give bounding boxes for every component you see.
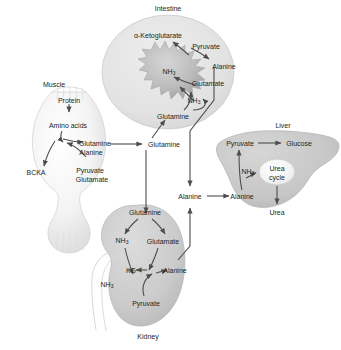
nh3-formula-text: NH3: [242, 168, 255, 175]
intestine-label-glutamine: Glutamine: [157, 113, 189, 120]
muscle-label-glutamate: Glutamate: [76, 176, 108, 183]
muscle-label-amino-acids: Amino acids: [49, 122, 87, 129]
liver-label-urea: Urea: [269, 209, 284, 216]
nh3-formula-text: NH3: [188, 97, 201, 104]
intestine-label-glutamate: Glutamate: [192, 80, 224, 87]
kidney-label-glutamate: Glutamate: [147, 238, 179, 245]
kidney-label-alanine: Alanine: [163, 267, 186, 274]
kidney-label-nh3-intracellular: NH3: [116, 237, 129, 245]
liver-label-glucose: Glucose: [286, 140, 312, 147]
kidney-label-pyruvate: Pyruvate: [132, 300, 160, 307]
organ-title-kidney: Kidney: [137, 333, 158, 340]
blood-label-glutamine: Glutamine: [148, 141, 180, 148]
muscle-label-alanine: Alanine: [79, 149, 102, 156]
kidney-label-glutamine: Glutamine: [129, 209, 161, 216]
liver-label-pyruvate: Pyruvate: [226, 140, 254, 147]
diagram-canvas: Intestine Muscle Liver Kidney Protein Am…: [0, 0, 341, 350]
liver-label-urea-cycle-line2: cycle: [269, 174, 285, 181]
liver-label-urea-cycle-line1: Urea: [269, 165, 284, 172]
intestine-label-alpha-ketoglutarate: α-Ketoglutarate: [134, 32, 182, 39]
muscle-label-bcka: BCKA: [26, 169, 45, 176]
nh3-formula-text: NH3: [101, 281, 114, 288]
nh3-formula-text: NH3: [116, 237, 129, 244]
intestine-label-nh3-core: NH3: [163, 68, 176, 76]
diagram-graphics: [0, 0, 341, 350]
intestine-label-pyruvate: Pyruvate: [192, 43, 220, 50]
kidney-label-nh3-excreted: NH3: [101, 281, 114, 289]
organ-title-muscle: Muscle: [43, 81, 65, 88]
urea-cycle-node: [259, 159, 295, 185]
muscle-label-pyruvate: Pyruvate: [76, 167, 104, 174]
organ-title-liver: Liver: [275, 122, 290, 129]
blood-label-alanine: Alanine: [178, 193, 201, 200]
intestine-label-alanine: Alanine: [212, 63, 235, 70]
kidney-label-kg: KG: [126, 267, 136, 274]
intestine-label-nh3-released: NH3: [188, 97, 201, 105]
muscle-label-glutamine: Glutamine: [79, 140, 111, 147]
nh3-formula-text: NH3: [163, 68, 176, 75]
muscle-label-protein: Protein: [58, 97, 80, 104]
liver-label-nh3: NH3: [242, 168, 255, 176]
liver-label-alanine: Alanine: [230, 193, 253, 200]
organ-title-intestine: Intestine: [155, 5, 181, 12]
ureter: [92, 253, 108, 330]
